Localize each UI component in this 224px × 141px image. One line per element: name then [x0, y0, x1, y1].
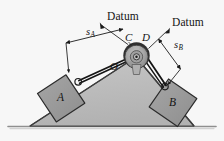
mechanics-figure: Datum Datum C D O A B sA sB — [0, 0, 224, 141]
dimension-label-sa: sA — [86, 27, 95, 39]
dimension-label-sb: sB — [174, 40, 183, 52]
datum-label-right: Datum — [172, 17, 204, 29]
point-label-c: C — [125, 32, 132, 43]
dimension-line-sa — [66, 29, 130, 73]
block-label-b: B — [169, 97, 176, 109]
dimension-sb-subscript: B — [178, 44, 182, 52]
datum-leader-right — [149, 28, 170, 49]
point-label-d: D — [142, 32, 150, 43]
dimension-sa-subscript: A — [90, 31, 94, 39]
datum-label-left: Datum — [107, 11, 139, 23]
point-label-o: O — [110, 61, 118, 72]
block-label-a: A — [57, 92, 64, 104]
ground-line — [8, 127, 216, 129]
